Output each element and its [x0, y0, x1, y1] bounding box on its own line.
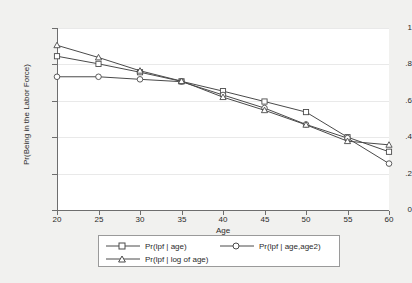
legend-item-pr-lpf-age-age2[interactable]: Pr(lpf | age,age2) — [219, 240, 321, 252]
y-tick-label: .4 — [364, 133, 412, 141]
legend-item-pr-lpf-age[interactable]: Pr(lpf | age) — [105, 240, 187, 252]
legend-label: Pr(lpf | age) — [145, 242, 187, 251]
gridline — [58, 137, 389, 138]
x-tick-label: 45 — [253, 216, 277, 224]
y-tick-label: 0 — [364, 206, 412, 214]
legend-item-pr-lpf-log-of-age[interactable]: Pr(lpf | log of age) — [105, 253, 208, 265]
gridline — [58, 101, 389, 102]
gridline — [58, 28, 389, 29]
y-tick-label: .6 — [364, 97, 412, 105]
x-tick-label: 60 — [377, 216, 401, 224]
gridline — [58, 174, 389, 175]
chart-figure: 0.2.4.6.81 202530354045505560 Pr(Being i… — [0, 0, 412, 283]
y-tick-label: .2 — [364, 170, 412, 178]
x-tick-label: 35 — [170, 216, 194, 224]
y-tick — [52, 101, 57, 102]
legend-key-triangle — [105, 254, 141, 264]
y-tick-label: 1 — [364, 24, 412, 32]
plot-area — [57, 28, 389, 211]
legend-key-square — [105, 241, 141, 251]
y-tick — [52, 64, 57, 65]
legend-label: Pr(lpf | log of age) — [145, 255, 208, 264]
y-axis-title: Pr(Being in the Labor Force) — [22, 25, 31, 205]
y-tick — [52, 28, 57, 29]
x-tick-label: 40 — [211, 216, 235, 224]
legend-label: Pr(lpf | age,age2) — [259, 242, 321, 251]
x-axis-title: Age — [57, 226, 389, 235]
x-tick-label: 20 — [45, 216, 69, 224]
y-tick-label: .8 — [364, 60, 412, 68]
gridline — [58, 64, 389, 65]
chart-legend: Pr(lpf | age) Pr(lpf | age,age2) Pr(lpf … — [98, 235, 340, 267]
legend-key-circle — [219, 241, 255, 251]
x-tick-label: 30 — [128, 216, 152, 224]
x-tick-label: 50 — [294, 216, 318, 224]
y-tick — [52, 174, 57, 175]
x-tick-label: 55 — [336, 216, 360, 224]
y-axis-line — [57, 28, 58, 211]
x-tick-label: 25 — [87, 216, 111, 224]
y-tick — [52, 137, 57, 138]
